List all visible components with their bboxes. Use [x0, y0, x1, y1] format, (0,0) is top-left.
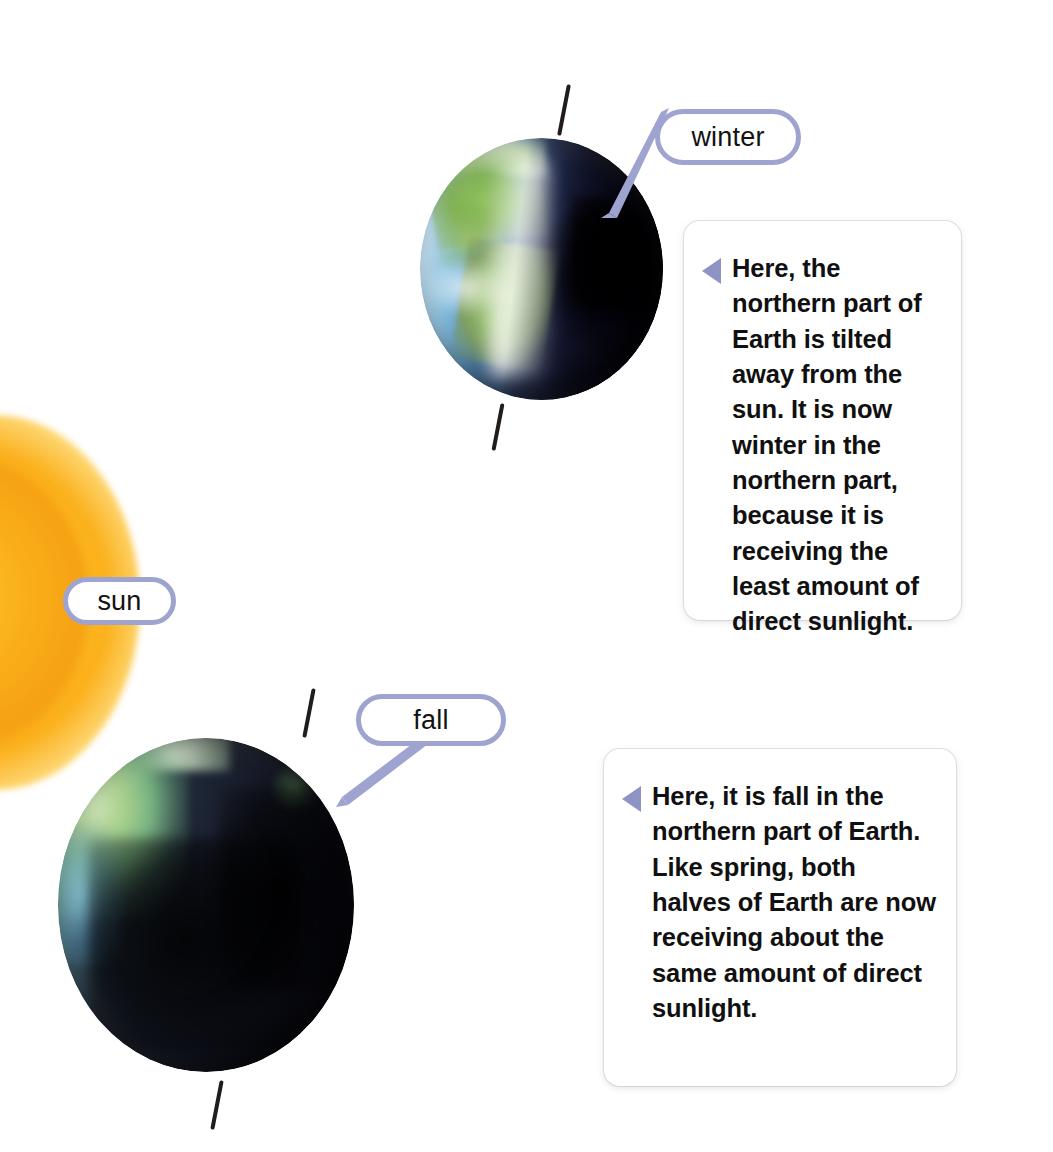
label-pill-sun[interactable]: sun — [63, 577, 176, 625]
globe-limb-shading — [58, 738, 354, 1072]
tilt-axis-line-fall-bottom — [210, 1080, 223, 1130]
callout-winter-text: Here, the northern part of Earth is tilt… — [732, 251, 941, 594]
callout-fall-text: Here, it is fall in the northern part of… — [652, 779, 936, 1060]
left-triangle-bullet-icon — [622, 786, 641, 812]
label-pill-sun-text: sun — [97, 586, 141, 617]
tilt-axis-line-winter-top — [557, 84, 571, 136]
label-pill-winter[interactable]: winter — [655, 109, 801, 165]
earth-globe-fall — [58, 738, 354, 1072]
callout-winter: Here, the northern part of Earth is tilt… — [684, 221, 961, 620]
label-pill-fall-text: fall — [413, 705, 448, 736]
tilt-axis-line-winter-bottom — [491, 403, 504, 451]
label-pill-fall[interactable]: fall — [356, 694, 506, 746]
tilt-axis-line-fall-top — [302, 688, 315, 738]
left-triangle-bullet-icon — [702, 258, 721, 284]
label-pill-winter-text: winter — [691, 122, 764, 153]
diagram-canvas: sun winter Here, the northern part of Ea… — [0, 0, 1053, 1152]
pointer-tail-fall — [320, 735, 450, 855]
callout-fall: Here, it is fall in the northern part of… — [604, 749, 956, 1086]
